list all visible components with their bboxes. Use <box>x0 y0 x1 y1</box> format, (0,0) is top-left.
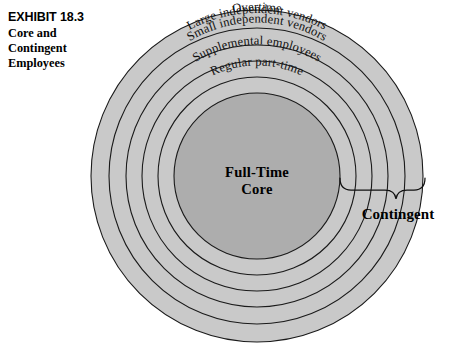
contingent-label: Contingent <box>362 206 435 222</box>
core-label-line-1: Full-Time <box>225 164 289 180</box>
core-contingent-diagram: Overtime Large independent vendors Small… <box>0 0 457 356</box>
core-label-line-2: Core <box>241 181 273 197</box>
